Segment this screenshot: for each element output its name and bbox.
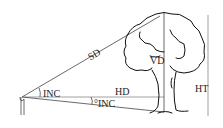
upper-angle-arc <box>39 88 40 97</box>
ht-label: HT <box>195 83 208 94</box>
inc-upper-label: INC <box>43 88 61 99</box>
observer-post <box>20 97 24 115</box>
sd-label: SD <box>86 46 103 62</box>
lower-angle-arc <box>91 97 92 104</box>
inc-lower-label: °INC <box>94 98 116 109</box>
hd-label: HD <box>115 86 129 97</box>
base-sight-line <box>22 97 164 112</box>
tree-height-measurement-diagram: SD VD HD HT INC °INC <box>0 0 223 128</box>
vd-label: VD <box>150 55 164 66</box>
